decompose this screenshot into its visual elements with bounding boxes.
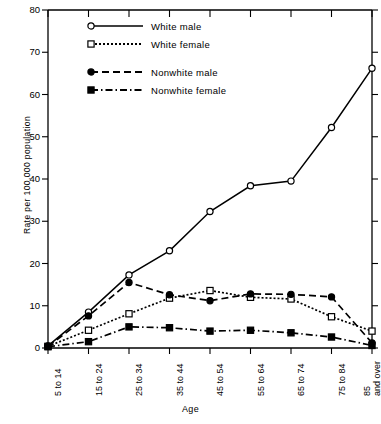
y-tick-label: 20 — [14, 259, 40, 269]
x-tick-label-line: 15 to 24 — [94, 363, 104, 396]
data-point — [166, 325, 172, 331]
data-point — [207, 328, 213, 334]
legend-sample-filled-square-icon — [85, 83, 145, 97]
data-point — [166, 292, 172, 298]
x-tick-label-line: 5 to 14 — [53, 368, 63, 396]
data-point — [88, 87, 94, 93]
legend-sample-open-square-icon — [85, 37, 145, 51]
data-point — [247, 183, 253, 189]
y-tick-label: 80 — [14, 5, 40, 15]
data-point — [207, 287, 213, 293]
data-point — [328, 124, 334, 130]
x-tick-label: 5 to 14 — [53, 368, 63, 396]
data-point — [126, 279, 132, 285]
y-tick-label: 0 — [14, 343, 40, 353]
x-tick-label-line: 25 to 34 — [134, 363, 144, 396]
legend-label: Nonwhite male — [151, 67, 218, 78]
legend-item: Nonwhite female — [85, 81, 226, 99]
data-point — [88, 69, 94, 75]
data-point — [207, 298, 213, 304]
y-tick-label: 70 — [14, 47, 40, 57]
legend-label: Nonwhite female — [151, 85, 226, 96]
series-white-male — [45, 65, 375, 349]
data-point — [288, 291, 294, 297]
x-tick-label-line: 35 to 44 — [175, 363, 185, 396]
legend-swatch-icon — [85, 83, 145, 97]
data-point — [369, 342, 375, 348]
x-tick-label-line: 45 to 54 — [215, 363, 225, 396]
data-point — [328, 334, 334, 340]
data-point — [126, 311, 132, 317]
data-point — [247, 291, 253, 297]
legend-sample-open-circle-icon — [85, 19, 145, 33]
legend-spacer — [85, 53, 226, 63]
x-tick-label-line: 55 to 64 — [256, 363, 266, 396]
data-point — [85, 313, 91, 319]
x-tick-label: 85and over — [362, 361, 381, 396]
data-point — [207, 208, 213, 214]
x-tick-label-line: 75 to 84 — [337, 363, 347, 396]
x-tick-label: 15 to 24 — [94, 363, 104, 396]
data-point — [88, 41, 94, 47]
chart-legend: White maleWhite femaleNonwhite maleNonwh… — [85, 17, 226, 99]
data-point — [288, 330, 294, 336]
x-tick-label-line: and over — [372, 361, 381, 396]
series-nonwhite-female — [45, 324, 375, 350]
data-point — [247, 327, 253, 333]
data-point — [166, 248, 172, 254]
data-point — [45, 344, 51, 350]
legend-swatch-icon — [85, 19, 145, 33]
x-axis-title: Age — [0, 404, 381, 414]
data-point — [85, 339, 91, 345]
x-tick-label: 75 to 84 — [337, 363, 347, 396]
data-point — [369, 328, 375, 334]
y-tick-label: 10 — [14, 301, 40, 311]
data-point — [126, 324, 132, 330]
data-point — [126, 272, 132, 278]
legend-sample-filled-circle-icon — [85, 65, 145, 79]
legend-label: White female — [151, 39, 210, 50]
data-point — [369, 65, 375, 71]
y-tick-label: 50 — [14, 132, 40, 142]
data-point — [88, 23, 94, 29]
x-tick-label-line: 85 — [362, 361, 372, 396]
legend-swatch-icon — [85, 65, 145, 79]
x-tick-label: 35 to 44 — [175, 363, 185, 396]
legend-item: White male — [85, 17, 226, 35]
x-tick-label-line: 65 to 74 — [296, 363, 306, 396]
y-tick-label: 60 — [14, 90, 40, 100]
legend-swatch-icon — [85, 37, 145, 51]
x-tick-label: 25 to 34 — [134, 363, 144, 396]
legend-item: White female — [85, 35, 226, 53]
legend-item: Nonwhite male — [85, 63, 226, 81]
data-point — [85, 327, 91, 333]
x-tick-label: 65 to 74 — [296, 363, 306, 396]
x-tick-label: 55 to 64 — [256, 363, 266, 396]
x-tick-label: 45 to 54 — [215, 363, 225, 396]
y-tick-label: 30 — [14, 216, 40, 226]
data-point — [288, 178, 294, 184]
y-tick-label: 40 — [14, 174, 40, 184]
data-point — [328, 314, 334, 320]
line-chart: Rate per 100,000 population Age 01020304… — [0, 0, 381, 424]
data-point — [328, 294, 334, 300]
legend-label: White male — [151, 21, 202, 32]
